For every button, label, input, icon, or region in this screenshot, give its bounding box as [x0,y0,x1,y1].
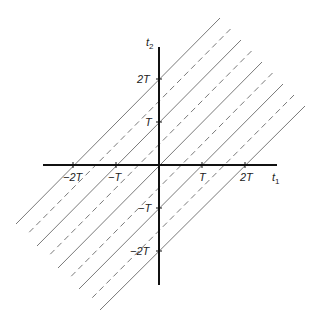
line-solid-negT [79,84,283,289]
t2-sub: 2 [149,42,153,51]
x-tick-label-negT: −T [108,172,121,183]
y-tick-label-T: T [145,117,152,128]
diagram-canvas [0,0,321,320]
x-tick-label-neg2T: −2T [63,172,82,183]
y-tick-label-negT: −T [138,203,151,214]
line-solid-T [37,40,241,246]
y-tick-label-2T: 2T [137,74,150,85]
t1-sub: 1 [275,177,279,186]
x-tick-label-T: T [199,172,206,183]
y-tick-label-neg2T: −2T [130,246,149,257]
t1-axis-label: t1 [272,172,280,183]
line-solid-neg2T [100,106,305,310]
line-solid-2T [16,18,220,224]
line-dashed-1.5T [27,29,231,235]
x-tick-label-2T: 2T [240,172,253,183]
t2-axis-label: t2 [146,37,154,48]
diagram: t2 t1 2T T −T −2T −2T −T T 2T [0,0,321,320]
line-dashed-neg1.5T [90,95,294,300]
